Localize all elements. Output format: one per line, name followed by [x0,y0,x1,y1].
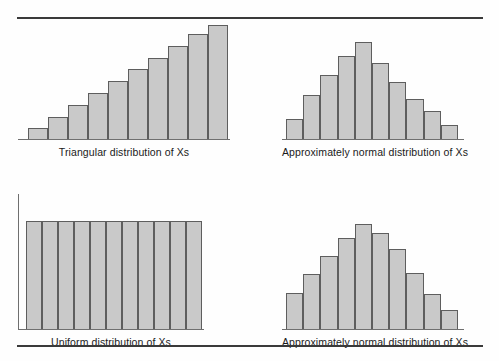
bar [58,221,74,329]
bar [303,274,320,329]
chart-panel-triangular: Triangular distribution of Xs [18,22,230,140]
bar [372,63,389,139]
bar [303,95,320,139]
bar [28,128,48,139]
bar [48,117,68,139]
plot-area-normal-bottom [282,213,464,330]
bar [208,25,228,139]
bar [355,224,372,329]
chart-panel-uniform: Uniform distribution of Xs [18,213,204,330]
bar [138,221,154,329]
x-axis-normal-top [282,139,464,140]
bar [320,256,337,329]
plot-area-triangular [18,22,230,140]
bar [106,221,122,329]
bar [389,249,406,329]
bar-series-normal-bottom [286,212,458,329]
bar [320,75,337,139]
bar [128,69,148,139]
bar [389,82,406,139]
bar [338,56,355,139]
figure-page: Triangular distribution of Xs Approximat… [0,0,499,361]
bar [68,105,88,139]
caption-normal-top: Approximately normal distribution of Xs [282,146,464,158]
bar [88,93,108,139]
bar [122,221,138,329]
x-axis-triangular [18,139,230,140]
bar [286,293,303,329]
bar [186,221,202,329]
bar [90,221,106,329]
bottom-divider-rule [17,345,483,347]
chart-panel-normal-top: Approximately normal distribution of Xs [282,22,464,140]
bar [441,310,458,329]
bar [424,111,441,139]
bar [286,119,303,139]
bar [148,58,168,139]
bar [108,81,128,139]
bar-series-triangular [28,21,228,139]
top-divider-rule [17,17,483,19]
bar [42,221,58,329]
bar [406,273,423,329]
bar [168,46,188,139]
bar [26,221,42,329]
bar [154,221,170,329]
bar-series-normal-top [286,21,458,139]
bar [338,238,355,329]
bar [441,125,458,139]
x-axis-uniform [18,329,204,330]
bar [188,34,208,139]
bar [406,99,423,139]
bar [74,221,90,329]
chart-panel-normal-bottom: Approximately normal distribution of Xs [282,213,464,330]
caption-triangular: Triangular distribution of Xs [18,146,230,158]
bar [372,233,389,329]
bar [424,294,441,329]
plot-area-uniform [18,213,204,330]
x-axis-normal-bottom [282,329,464,330]
bar-series-uniform [26,212,202,329]
plot-area-normal-top [282,22,464,140]
bar [170,221,186,329]
y-axis-uniform [18,194,19,330]
bar [355,42,372,139]
